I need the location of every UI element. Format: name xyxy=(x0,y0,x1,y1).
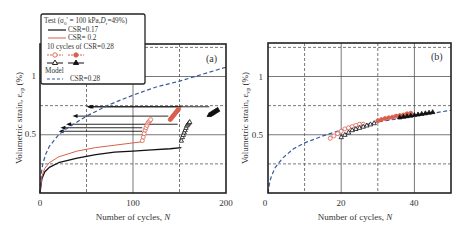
legend-title: Test (σ0' = 100 kPa,Dr=49%) xyxy=(44,17,128,26)
grid-b xyxy=(268,43,451,193)
ylabel-a: Volumetric strain, εvp (%) xyxy=(14,72,25,164)
ylabel-b: Volumetric strain, εvp (%) xyxy=(240,72,251,164)
xtick-b-0: 0 xyxy=(263,198,268,208)
triangle-marker-icon xyxy=(215,107,219,111)
panel-label-b: (b) xyxy=(431,51,443,63)
ytick-a-0.5: 0.5 xyxy=(25,129,37,139)
circle-marker-icon xyxy=(336,132,340,136)
triangle-marker-icon xyxy=(188,120,192,124)
xtick-a-0: 0 xyxy=(38,198,43,208)
xlabel-a: Number of cycles, N xyxy=(96,212,171,222)
legend-label-model: Model xyxy=(45,67,64,75)
ytick-b-1: 1 xyxy=(259,72,264,82)
circle-marker-icon xyxy=(177,107,181,111)
series-line xyxy=(40,148,181,193)
xlabel-b: Number of cycles, N xyxy=(318,212,393,222)
figure: (a) 0.5 1 0 100 200 Number of cycles, N … xyxy=(0,0,464,232)
ytick-a-1: 1 xyxy=(32,71,37,81)
legend-label-csr017: CSR=0.17 xyxy=(68,26,99,34)
circle-marker-icon xyxy=(332,134,336,138)
circle-marker-icon xyxy=(149,118,153,122)
chart-panel-b: (b) 0.5 1 0 20 40 Number of cycles, N Vo… xyxy=(240,43,451,222)
arrow-head-icon xyxy=(66,122,71,126)
arrow-head-icon xyxy=(73,114,78,118)
xtick-b-20: 20 xyxy=(337,198,347,208)
arrow-head-icon xyxy=(60,126,65,130)
plot-frame-b xyxy=(268,43,451,193)
ytick-b-0.5: 0.5 xyxy=(252,130,264,140)
xtick-b-40: 40 xyxy=(410,198,420,208)
legend: Test (σ0' = 100 kPa,Dr=49%) CSR=0.17 CSR… xyxy=(41,14,145,84)
triangle-marker-icon xyxy=(431,110,435,114)
legend-label-csr02: CSR= 0.2 xyxy=(68,34,97,42)
xtick-a-200: 200 xyxy=(219,198,233,208)
panel-label-a: (a) xyxy=(206,53,217,65)
legend-label-10cycles: 10 cycles of CSR=0.28 xyxy=(47,43,114,51)
series-b xyxy=(268,110,451,193)
circle-marker-icon xyxy=(328,136,332,140)
xtick-a-100: 100 xyxy=(126,198,140,208)
circle-marker-icon xyxy=(339,129,343,133)
legend-label-model-csr: CSR=0.28 xyxy=(70,75,101,83)
chart-panel-a: (a) 0.5 1 0 100 200 Number of cycles, N … xyxy=(14,14,233,222)
series-line xyxy=(40,142,142,193)
